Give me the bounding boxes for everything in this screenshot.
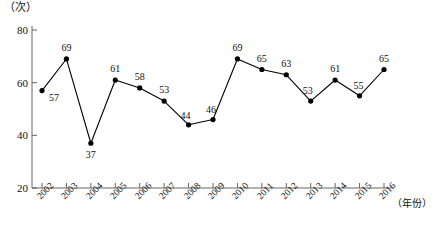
data-label-2014: 61: [325, 64, 345, 74]
data-label-2008: 44: [176, 111, 196, 121]
data-label-2012: 63: [276, 59, 296, 69]
data-label-2004: 37: [81, 150, 101, 160]
data-label-2005: 61: [105, 64, 125, 74]
data-label-2002: 57: [44, 93, 64, 103]
y-tick-label-40: 40: [4, 130, 28, 141]
y-tick-label-20: 20: [4, 183, 28, 194]
data-label-2003: 69: [56, 43, 76, 53]
y-tick-label-60: 60: [4, 78, 28, 89]
data-label-2010: 69: [227, 43, 247, 53]
data-label-2007: 53: [154, 85, 174, 95]
data-label-2015: 55: [349, 81, 369, 91]
data-label-2013: 53: [298, 86, 318, 96]
data-label-2009: 46: [201, 105, 221, 115]
data-label-2016: 65: [374, 54, 394, 64]
line-chart: （次） （年份） 80604020 2002200320042005200620…: [0, 0, 435, 229]
data-label-2011: 65: [252, 54, 272, 64]
y-tick-label-80: 80: [4, 25, 28, 36]
data-label-2006: 58: [130, 72, 150, 82]
